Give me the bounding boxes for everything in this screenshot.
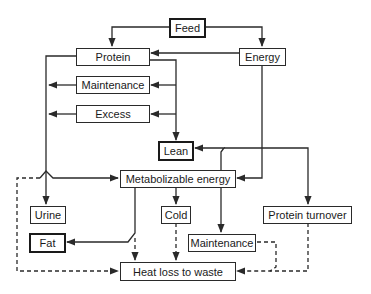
node-cold: Cold [161,206,191,224]
edge-feed-energy [205,27,262,46]
node-energy: Energy [239,48,286,66]
node-feed: Feed [169,18,206,38]
edge-me-fat [67,187,135,242]
node-protein-turnover: Protein turnover [263,206,352,224]
node-urine: Urine [30,206,66,224]
edge-energy-metabolizable [237,65,262,178]
edge-protein-urine [46,56,76,204]
node-protein: Protein [76,48,150,66]
edge-me-turnover [224,148,308,204]
edge-to-metabolizable [40,171,118,178]
node-metabolizable-energy: Metabolizable energy [120,170,236,188]
node-maintenance-protein: Maintenance [76,76,150,94]
node-heat-loss: Heat loss to waste [120,262,236,281]
node-excess: Excess [76,105,150,123]
edge-me-lean [195,148,224,170]
edge-feed-protein [112,27,169,46]
node-lean: Lean [158,141,194,161]
edge-left-loop-heat [17,178,118,271]
node-fat: Fat [29,233,66,253]
node-maintenance-energy: Maintenance [188,234,256,252]
edge-protein-lean [149,60,176,140]
